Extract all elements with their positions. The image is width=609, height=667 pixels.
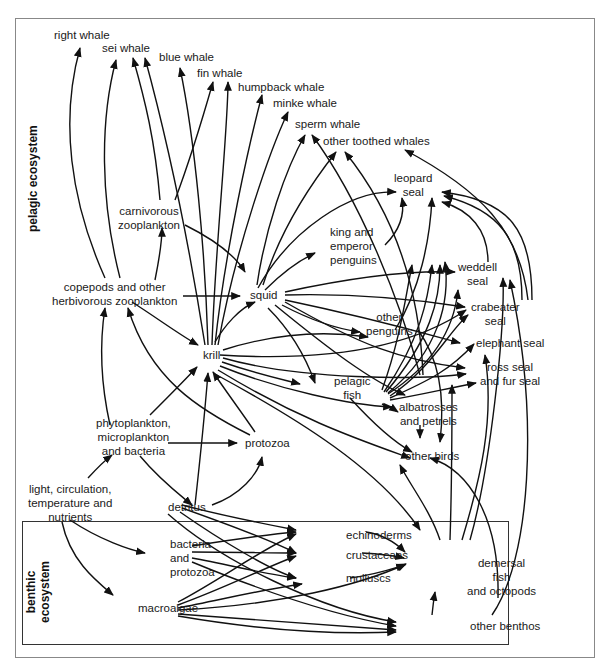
- node-minke-whale: minke whale: [273, 96, 337, 110]
- bact-line1: bacteria: [170, 537, 215, 551]
- node-sperm-whale: sperm whale: [295, 117, 360, 131]
- leopard-seal-line1: leopard: [394, 171, 432, 185]
- phyto-line3: and bacteria: [96, 444, 171, 458]
- weddell-line1: weddell: [458, 260, 497, 274]
- arrow-krill-squid: [215, 302, 255, 342]
- node-molluscs: molluscs: [346, 571, 391, 585]
- node-copepods: copepods and other herbivorous zooplankt…: [52, 280, 177, 308]
- node-ross-fur-seal: ross seal and fur seal: [480, 360, 540, 388]
- node-macroalgae: macroalgae: [138, 601, 198, 615]
- demersal-line2: fish: [467, 570, 536, 584]
- arrow-light-phyto: [88, 455, 112, 478]
- node-crabeater-seal: crabeater seal: [471, 300, 520, 328]
- arrow-squid-toothed: [263, 152, 336, 285]
- demersal-line1: demersal: [467, 556, 536, 570]
- arrow-krill-demersal: [215, 374, 420, 530]
- node-albatrosses-petrels: albatrosses and petrels: [399, 400, 458, 428]
- node-carnivorous-zooplankton: carnivorous zooplankton: [118, 204, 180, 232]
- arrow-light-bacteria: [70, 520, 145, 553]
- arrow-light-macroalgae: [62, 522, 113, 595]
- carniv-line2: zooplankton: [118, 218, 180, 232]
- arrow-detritus-protozoa: [212, 457, 262, 505]
- node-leopard-seal: leopard seal: [394, 171, 432, 199]
- crabeater-line1: crabeater: [471, 300, 520, 314]
- light-line3: nutrients: [28, 510, 112, 524]
- pelagic-ecosystem-label: pelagic ecosystem: [26, 125, 40, 232]
- node-pelagic-fish: pelagic fish: [334, 374, 370, 402]
- weddell-line2: seal: [458, 274, 497, 288]
- node-squid: squid: [250, 288, 278, 302]
- node-weddell-seal: weddell seal: [458, 260, 497, 288]
- node-other-birds: other birds: [405, 449, 459, 463]
- node-detritus: detritus: [168, 500, 206, 514]
- benthic-label-line1: benthic: [24, 561, 38, 623]
- node-right-whale: right whale: [54, 28, 110, 42]
- arrow-detritus-krill: [195, 373, 208, 505]
- albatross-line1: albatrosses: [399, 400, 458, 414]
- node-blue-whale: blue whale: [159, 50, 214, 64]
- benthic-ecosystem-label: benthic ecosystem: [24, 561, 52, 623]
- copepods-line1: copepods and other: [52, 280, 177, 294]
- carniv-line1: carnivorous: [118, 204, 180, 218]
- arrow-fish-albatross: [382, 404, 398, 412]
- node-other-toothed-whales: other toothed whales: [323, 134, 430, 148]
- arrow-copepods-sei-whale: [104, 60, 120, 278]
- arrow-krill-minke: [218, 112, 288, 345]
- node-bacteria-protozoa: bacteria and protozoa: [170, 537, 215, 579]
- bact-line3: protozoa: [170, 565, 215, 579]
- phyto-line2: microplankton: [96, 430, 171, 444]
- king-line3: penguins: [330, 253, 377, 267]
- arrow-macro-other-benthos2: [178, 616, 396, 633]
- arrow-carniv-sei: [133, 58, 160, 200]
- arrow-copepods-right-whale: [70, 48, 105, 278]
- arrow-carniv-fin: [175, 82, 213, 200]
- arrow-copepods-krill: [132, 302, 198, 345]
- node-protozoa: protozoa: [245, 436, 290, 450]
- light-line2: temperature and: [28, 496, 112, 510]
- leopard-seal-line2: seal: [394, 185, 432, 199]
- node-elephant-seal: elephant seal: [476, 336, 544, 350]
- copepods-line2: herbivorous zooplankton: [52, 294, 177, 308]
- node-crustaceans: crustaceans: [346, 548, 408, 562]
- arrow-benthos-demersal: [432, 592, 435, 615]
- arrow-krill-blue: [180, 68, 208, 345]
- node-sei-whale: sei whale: [102, 41, 150, 55]
- node-phytoplankton: phytoplankton, microplankton and bacteri…: [96, 416, 171, 458]
- king-line1: king and: [330, 225, 377, 239]
- arrow-phyto-krill: [150, 367, 197, 415]
- node-king-emperor-penguins: king and emperor penguins: [330, 225, 377, 267]
- albatross-line2: and petrels: [399, 414, 458, 428]
- arrow-phyto-detritus: [140, 456, 192, 505]
- ross-line2: and fur seal: [480, 374, 540, 388]
- arrow-macro-other-benthos: [178, 614, 396, 630]
- node-other-penguins: other penguins: [366, 310, 413, 338]
- arrow-phyto-copepods: [102, 308, 110, 425]
- node-krill: krill: [203, 348, 220, 362]
- pelagic-fish-line1: pelagic: [334, 374, 370, 388]
- benthic-label-line2: ecosystem: [38, 561, 52, 623]
- node-light-circulation: light, circulation, temperature and nutr…: [28, 482, 112, 524]
- other-penguins-line1: other: [366, 310, 413, 324]
- king-line2: emperor: [330, 239, 377, 253]
- phyto-line1: phytoplankton,: [96, 416, 171, 430]
- arrow-protozoa-krill: [213, 372, 255, 432]
- light-line1: light, circulation,: [28, 482, 112, 496]
- other-penguins-line2: penguins: [366, 324, 413, 338]
- node-demersal-fish-octopods: demersal fish and octopods: [467, 556, 536, 598]
- ross-line1: ross seal: [480, 360, 540, 374]
- crabeater-line2: seal: [471, 314, 520, 328]
- bact-line2: and: [170, 551, 215, 565]
- arrow-squid-other-penguins: [282, 305, 360, 332]
- node-fin-whale: fin whale: [197, 66, 242, 80]
- node-other-benthos: other benthos: [470, 619, 540, 633]
- demersal-line3: and octopods: [467, 584, 536, 598]
- arrow-krill-humpback: [215, 95, 262, 345]
- arrow-copepods-carniv: [155, 228, 162, 280]
- pelagic-fish-line2: fish: [334, 388, 370, 402]
- node-echinoderms: echinoderms: [346, 528, 412, 542]
- node-humpback-whale: humpback whale: [238, 80, 324, 94]
